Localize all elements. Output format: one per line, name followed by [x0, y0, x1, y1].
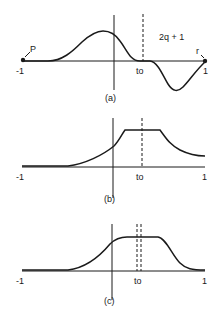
point-p-marker — [21, 58, 25, 62]
panel-c: -1 1 to (c) — [16, 224, 207, 306]
x-left-label: -1 — [16, 172, 24, 182]
caption-b: (b) — [104, 194, 115, 204]
expression-label: 2q + 1 — [159, 32, 184, 42]
point-r-pointer — [201, 55, 204, 58]
x-left-label: -1 — [16, 66, 24, 76]
figure: P r 2q + 1 -1 1 to (a) -1 1 to (b) -1 1 … — [0, 0, 217, 327]
point-r-label: r — [196, 46, 199, 56]
x-right-label: 1 — [203, 66, 208, 76]
curve-c — [22, 237, 205, 270]
panel-b: -1 1 to (b) — [16, 118, 207, 204]
caption-a: (a) — [105, 93, 116, 103]
point-p-label: P — [30, 44, 36, 54]
point-r-marker — [203, 59, 207, 63]
x-right-label: 1 — [202, 172, 207, 182]
t0-label: to — [136, 66, 144, 76]
panel-a: P r 2q + 1 -1 1 to (a) — [16, 14, 208, 103]
x-left-label: -1 — [16, 276, 24, 286]
x-right-label: 1 — [202, 276, 207, 286]
caption-c: (c) — [104, 296, 115, 306]
t0-label: to — [134, 276, 142, 286]
t0-label: to — [136, 172, 144, 182]
